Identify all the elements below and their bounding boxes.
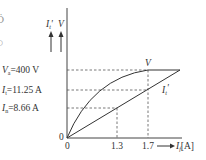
y-arrow-icon [49,31,64,52]
y-label-voltage: V [58,19,65,29]
tick-1-3: 1.3 [111,141,123,151]
x-axis-label: If[A] [175,141,194,152]
guide-lines [67,70,148,138]
y-label-current: It' [45,19,54,30]
x-arrow-icon [157,144,175,149]
origin-x-label: 0 [65,141,70,151]
curve-label-v: V [145,58,152,68]
tick-1-7: 1.7 [142,141,154,151]
level-in: In=8.66 A [1,103,39,114]
curve-label-it: It' [161,83,170,96]
level-it: It=11.25 A [1,85,42,96]
current-line [67,70,180,138]
level-va: Va=400 V [2,65,39,76]
magnetization-diagram: It' V Va=400 V It=11.25 A In=8.66 A 0 0 … [0,0,206,160]
origin-y-label: 0 [59,132,64,142]
